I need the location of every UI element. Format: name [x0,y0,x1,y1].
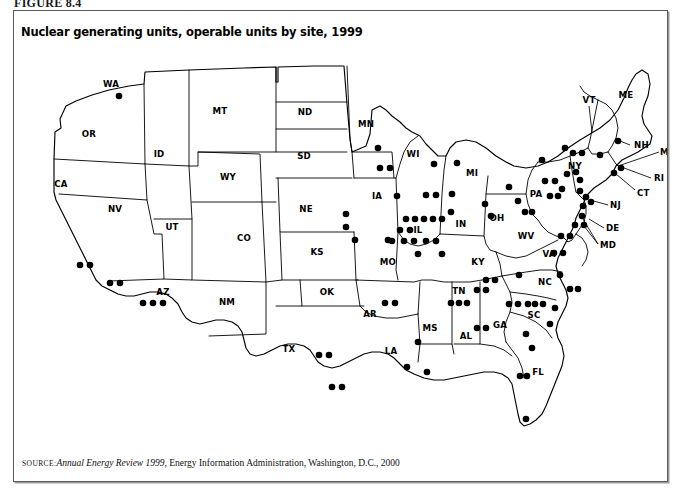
state-label-ga: GA [493,320,507,330]
unit-dot [532,301,539,308]
unit-dot [492,277,499,284]
unit-dot [423,192,430,199]
unit-dot [529,209,536,216]
state-label-co: CO [237,233,251,243]
unit-dot [421,216,428,223]
callout-label-nj: NJ [610,200,621,210]
unit-dot [515,301,522,308]
unit-dot [150,300,157,307]
callout-label-ri: RI [654,173,664,183]
state-label-mo: MO [380,257,396,267]
callout-label-nh: NH [634,140,649,150]
state-label-ny: NY [568,161,582,171]
leader-de [589,219,604,228]
unit-dot [412,216,419,223]
state-label-nd: ND [298,107,313,117]
national-outline [54,66,652,426]
unit-dot [575,286,582,293]
state-label-mt: MT [213,106,228,116]
state-label-wv: WV [518,231,535,241]
unit-dot [387,165,394,172]
unit-dot [415,339,422,346]
unit-dot [394,193,401,200]
callout-label-ct: CT [637,188,650,198]
state-label-mn: MN [358,119,374,129]
unit-dot [439,216,446,223]
state-boundaries [54,66,652,426]
state-label-vt: VT [583,95,596,105]
unit-dot [403,216,410,223]
callout-label-de: DE [606,223,619,233]
unit-dot [517,373,524,380]
unit-dot [431,161,438,168]
state-label-nc: NC [538,277,552,287]
state-label-wy: WY [220,172,237,182]
unit-dot [343,224,350,231]
unit-dot [555,193,562,200]
unit-dot [597,152,604,159]
unit-dot [433,238,440,245]
unit-dot [611,170,618,177]
state-label-ks: KS [310,247,323,257]
unit-dot [375,145,382,152]
unit-dot [559,186,566,193]
unit-dot [377,165,384,172]
state-label-in: IN [456,219,467,229]
unit-dot [579,150,586,157]
unit-dot [392,300,399,307]
unit-dot [474,287,481,294]
source-title: Annual Energy Review 1999 [56,458,164,468]
unit-dot [424,369,431,376]
unit-dot [567,286,574,293]
unit-dot [552,305,559,312]
state-label-mi: MI [466,168,478,178]
unit-dot [529,345,536,352]
unit-dot [389,238,396,245]
unit-dot [87,262,94,269]
unit-dot [482,201,489,208]
unit-dot [562,145,569,152]
unit-dot [339,384,346,391]
unit-dot [483,325,490,332]
unit-dot [547,321,554,328]
state-label-wi: WI [406,149,419,159]
unit-dot [557,272,564,279]
unit-dot [525,301,532,308]
state-label-fl: FL [532,367,544,377]
state-label-me: ME [619,90,634,100]
unit-dot [572,222,579,229]
unit-dot [116,93,123,100]
state-label-tx: TX [283,344,296,354]
unit-dot [407,227,414,234]
unit-dot [140,300,147,307]
unit-dot [326,352,333,359]
state-label-or: OR [82,129,97,139]
unit-dot [583,194,590,201]
unit-dot [423,238,430,245]
unit-dot [329,384,336,391]
unit-dot [552,178,559,185]
state-label-ut: UT [165,222,178,232]
state-label-ok: OK [320,287,335,297]
state-label-al: AL [460,331,473,341]
unit-dot [343,211,350,218]
unit-dot [448,209,455,216]
leader-ct [616,174,635,190]
state-label-az: AZ [156,287,169,297]
state-label-ia: IA [372,191,382,201]
unit-dot [117,280,124,287]
state-label-ky: KY [471,257,485,267]
state-label-wa: WA [103,79,119,89]
leader-ri [624,168,651,178]
source-line: SOURCE:Annual Energy Review 1999, Energy… [22,458,400,468]
unit-dot [439,251,446,258]
unit-dot [454,160,461,167]
unit-dot [397,227,404,234]
unit-dot [579,213,586,220]
unit-dot [77,262,84,269]
state-label-nv: NV [108,204,122,214]
unit-dot [448,300,455,307]
us-map-container: WA OR CA NV ID MT WY UT AZ NM CO ND SD N… [14,44,667,444]
state-label-ca: CA [54,179,68,189]
unit-dot [570,150,577,157]
